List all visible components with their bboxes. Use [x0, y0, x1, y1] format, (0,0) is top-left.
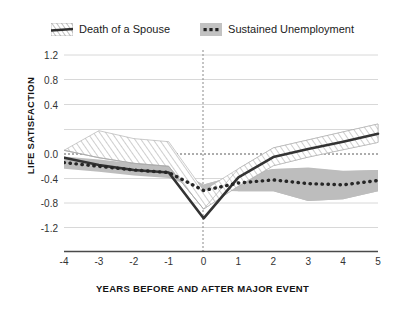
y-tick-label: -1.2 — [28, 222, 58, 233]
y-axis-title: LIFE SATISFACTION — [25, 66, 36, 186]
x-axis-title: YEARS BEFORE AND AFTER MAJOR EVENT — [0, 283, 405, 294]
chart-container: Death of a Spouse Sustained Unemployment — [0, 0, 405, 309]
x-tick-label: -1 — [157, 256, 181, 267]
x-tick-label: -4 — [52, 256, 76, 267]
y-tick-label: 1.2 — [28, 50, 58, 61]
x-tick-label: 4 — [331, 256, 355, 267]
x-tick-label: 0 — [192, 256, 216, 267]
x-tick-label: 5 — [366, 256, 390, 267]
x-tick-label: -3 — [87, 256, 111, 267]
x-tick-label: 2 — [261, 256, 285, 267]
x-tick-label: -2 — [122, 256, 146, 267]
x-tick-label: 3 — [296, 256, 320, 267]
y-tick-label: -0.8 — [28, 198, 58, 209]
x-tick-label: 1 — [226, 256, 250, 267]
